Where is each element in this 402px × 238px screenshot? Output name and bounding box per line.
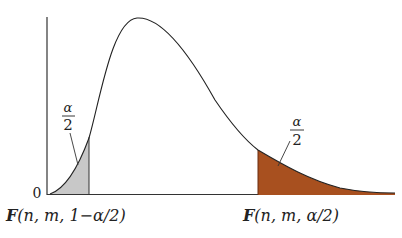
left-critical-label: F(n, m, 1−α/2)	[5, 206, 126, 225]
right-critical-args: (n, m, α/2)	[254, 206, 339, 225]
right-tail-area	[258, 150, 395, 195]
left-critical-args: (n, m, 1−α/2)	[17, 206, 125, 225]
right-alpha-numerator: α	[293, 114, 302, 129]
f-distribution-diagram: α 2 α 2 0 F(n, m, 1−α/2) F(n, m, α/2)	[0, 0, 402, 238]
right-leader-line	[278, 141, 290, 166]
left-tail-area	[50, 138, 89, 194]
density-curve	[50, 18, 395, 194]
origin-label: 0	[33, 185, 42, 201]
right-alpha-denominator: 2	[292, 131, 302, 149]
left-alpha-denominator: 2	[63, 116, 73, 134]
right-critical-label: F(n, m, α/2)	[242, 206, 339, 225]
left-leader-line	[70, 133, 78, 165]
left-alpha-numerator: α	[64, 100, 73, 115]
